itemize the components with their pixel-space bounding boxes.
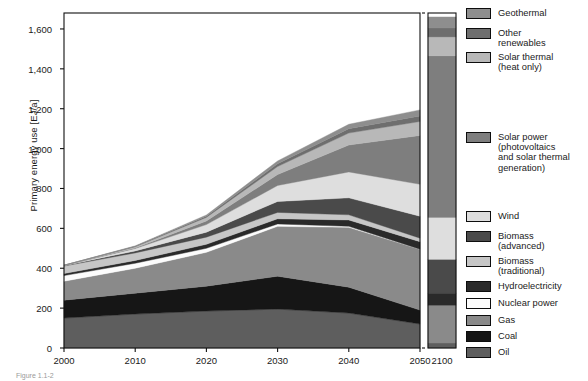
legend-item[interactable]: Other renewables xyxy=(466,28,546,48)
legend-swatch xyxy=(466,331,491,342)
legend-label: Wind xyxy=(498,211,519,221)
legend-swatch xyxy=(466,211,491,222)
area-band-2100 xyxy=(428,259,456,293)
legend-swatch xyxy=(466,28,491,39)
area-band-2100 xyxy=(428,293,456,305)
legend-label: Biomass (traditional) xyxy=(498,256,545,276)
legend-swatch xyxy=(466,132,491,143)
area-band-2100 xyxy=(428,37,456,56)
legend-item[interactable]: Solar thermal (heat only) xyxy=(466,52,553,72)
legend-item[interactable]: Biomass (traditional) xyxy=(466,256,545,276)
legend-swatch xyxy=(466,298,491,309)
legend-swatch xyxy=(466,256,491,267)
legend-item[interactable]: Biomass (advanced) xyxy=(466,231,545,251)
area-band-2100 xyxy=(428,343,456,348)
legend-label: Solar power (photovoltaics and solar the… xyxy=(498,132,570,173)
legend-item[interactable]: Hydroelectricity xyxy=(466,281,562,292)
legend-item[interactable]: Coal xyxy=(466,331,517,342)
legend-label: Nuclear power xyxy=(498,298,558,308)
area-band-2100 xyxy=(428,17,456,28)
legend-label: Oil xyxy=(498,347,509,357)
legend-item[interactable]: Geothermal xyxy=(466,8,547,19)
chart-figure: Primary energy use [EJ/a] 02004006008001… xyxy=(0,0,588,381)
legend-swatch xyxy=(466,347,491,358)
legend-item[interactable]: Gas xyxy=(466,315,515,326)
area-band-2100 xyxy=(428,305,456,343)
legend-swatch xyxy=(466,315,491,326)
legend-item[interactable]: Solar power (photovoltaics and solar the… xyxy=(466,132,570,173)
area-band-2100 xyxy=(428,217,456,259)
legend-swatch xyxy=(466,231,491,242)
figure-caption: Figure 1.1-2 xyxy=(16,372,54,379)
area-band-2100 xyxy=(428,56,456,218)
legend-label: Other renewables xyxy=(498,28,546,48)
legend-swatch xyxy=(466,52,491,63)
legend-label: Biomass (advanced) xyxy=(498,231,545,251)
legend-item[interactable]: Oil xyxy=(466,347,509,358)
legend-swatch xyxy=(466,8,491,19)
legend-item[interactable]: Wind xyxy=(466,211,519,222)
legend-swatch xyxy=(466,281,491,292)
legend-item[interactable]: Nuclear power xyxy=(466,298,558,309)
area-band-2100 xyxy=(428,28,456,37)
legend-label: Gas xyxy=(498,315,515,325)
legend-label: Coal xyxy=(498,331,517,341)
legend-label: Hydroelectricity xyxy=(498,281,562,291)
legend-label: Geothermal xyxy=(498,8,547,18)
legend-label: Solar thermal (heat only) xyxy=(498,52,553,72)
